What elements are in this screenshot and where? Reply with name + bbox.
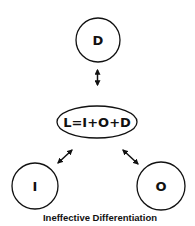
node-o: O	[137, 162, 185, 210]
arrow-l-i	[58, 150, 72, 163]
center-formula: L=I+O+D	[63, 115, 131, 130]
node-d-label: D	[93, 33, 104, 48]
node-i-label: I	[33, 179, 38, 194]
diagram-canvas: D L=I+O+D I O Ineffective Differentiatio…	[0, 0, 195, 226]
node-i: I	[12, 163, 58, 209]
center-node: L=I+O+D	[57, 106, 137, 138]
diagram-caption: Ineffective Differentiation	[43, 212, 157, 223]
node-o-label: O	[155, 179, 166, 194]
arrow-l-o	[123, 150, 138, 164]
node-d: D	[76, 18, 120, 62]
